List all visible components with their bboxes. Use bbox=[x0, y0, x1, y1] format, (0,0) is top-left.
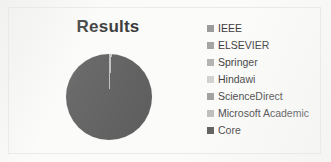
legend-swatch-icon bbox=[207, 59, 214, 66]
legend-item[interactable]: Springer bbox=[207, 54, 327, 71]
chart-screenshot: Results IEEEELSEVIERSpringerHindawiScien… bbox=[0, 0, 331, 162]
legend-swatch-icon bbox=[207, 127, 214, 134]
legend-swatch-icon bbox=[207, 93, 214, 100]
legend-label: IEEE bbox=[218, 20, 242, 37]
chart-legend: IEEEELSEVIERSpringerHindawiScienceDirect… bbox=[207, 20, 327, 139]
legend-item[interactable]: ELSEVIER bbox=[207, 37, 327, 54]
pie-chart bbox=[66, 54, 152, 140]
legend-label: ELSEVIER bbox=[218, 37, 269, 54]
legend-swatch-icon bbox=[207, 76, 214, 83]
legend-label: ScienceDirect bbox=[218, 88, 283, 105]
legend-label: Microsoft Academic bbox=[218, 105, 309, 122]
legend-swatch-icon bbox=[207, 110, 214, 117]
legend-item[interactable]: Microsoft Academic bbox=[207, 105, 327, 122]
legend-swatch-icon bbox=[207, 42, 214, 49]
legend-item[interactable]: Core bbox=[207, 122, 327, 139]
chart-title: Results bbox=[38, 17, 178, 37]
legend-item[interactable]: Hindawi bbox=[207, 71, 327, 88]
legend-label: Springer bbox=[218, 54, 258, 71]
pie-disc bbox=[66, 54, 152, 140]
legend-item[interactable]: IEEE bbox=[207, 20, 327, 37]
legend-swatch-icon bbox=[207, 25, 214, 32]
legend-label: Hindawi bbox=[218, 71, 255, 88]
legend-label: Core bbox=[218, 122, 241, 139]
legend-item[interactable]: ScienceDirect bbox=[207, 88, 327, 105]
